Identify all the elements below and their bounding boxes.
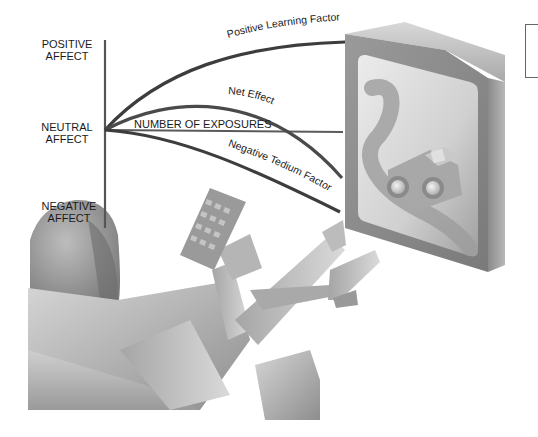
x-axis [105, 130, 343, 132]
curve-positive-learning-factor [105, 42, 345, 130]
y-label-neutral-affect: NEUTRAL AFFECT [32, 121, 102, 145]
y-label-positive-affect: POSITIVE AFFECT [32, 38, 102, 62]
x-axis-label: NUMBER OF EXPOSURES [134, 118, 272, 130]
y-label-neutral-line2: AFFECT [32, 133, 102, 145]
partial-frame-border [525, 24, 538, 78]
label-net-effect: Net Effect [228, 84, 277, 106]
y-label-negative-line2: AFFECT [34, 212, 104, 224]
television-icon [345, 22, 505, 272]
y-label-neutral-line1: NEUTRAL [32, 121, 102, 133]
y-label-positive-line2: AFFECT [32, 50, 102, 62]
y-label-negative-affect: NEGATIVE AFFECT [34, 200, 104, 224]
y-label-positive-line1: POSITIVE [32, 38, 102, 50]
y-label-negative-line1: NEGATIVE [34, 200, 104, 212]
label-positive-learning-factor: Positive Learning Factor [225, 10, 340, 40]
